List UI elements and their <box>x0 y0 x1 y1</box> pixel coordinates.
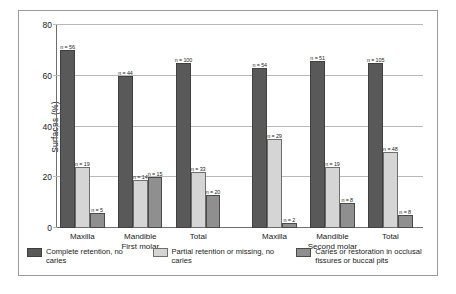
y-tick-label: 20 <box>43 172 52 182</box>
bar-group: n = 44n = 14n = 15MandibleFirst molar <box>115 25 173 228</box>
bar[interactable]: n = 14 <box>133 180 148 228</box>
legend-item[interactable]: Caries or restoration in occlusal fissur… <box>296 247 429 265</box>
bar-group: n = 100n = 33n = 20Total <box>173 25 231 228</box>
bar[interactable]: n = 48 <box>383 152 398 228</box>
y-tick-label: 0 <box>47 223 52 233</box>
bar[interactable]: n = 5 <box>90 213 105 228</box>
y-tick-label: 80 <box>43 20 52 30</box>
figure-frame: Surfaces (%) 020406080 n = 56n = 19n = 5… <box>18 10 438 276</box>
bar-value-label: n = 5 <box>91 207 103 213</box>
legend-swatch-icon <box>27 248 42 257</box>
x-axis-category-label: Maxilla <box>70 232 95 241</box>
bar-value-label: n = 100 <box>175 57 192 63</box>
bar[interactable]: n = 15 <box>148 177 163 228</box>
x-axis-category-label: Mandible <box>316 232 348 241</box>
bar[interactable]: n = 44 <box>118 76 133 228</box>
bar-value-label: n = 8 <box>399 209 411 215</box>
bar-series-container: n = 56n = 19n = 5Maxillan = 44n = 14n = … <box>57 25 423 228</box>
bar-value-label: n = 33 <box>191 166 206 172</box>
bar[interactable]: n = 19 <box>75 167 90 228</box>
bar-value-label: n = 20 <box>206 189 221 195</box>
bar-value-label: n = 105 <box>367 57 384 63</box>
bar-value-label: n = 44 <box>118 70 133 76</box>
x-axis-category-label: Total <box>190 232 207 241</box>
bar-value-label: n = 48 <box>383 146 398 152</box>
bar[interactable]: n = 105 <box>368 63 383 228</box>
bar-value-label: n = 15 <box>148 171 163 177</box>
bar[interactable]: n = 8 <box>340 203 355 228</box>
bar[interactable]: n = 29 <box>267 139 282 228</box>
bar[interactable]: n = 2 <box>282 223 297 228</box>
bar-value-label: n = 19 <box>325 161 340 167</box>
legend-label: Partial retention or missing, no caries <box>172 247 286 265</box>
legend-swatch-icon <box>296 248 311 257</box>
bar[interactable]: n = 20 <box>206 195 221 228</box>
legend-label: Complete retention, no caries <box>46 247 142 265</box>
bar-group: n = 54n = 29n = 2Maxilla <box>249 25 307 228</box>
bar[interactable]: n = 8 <box>398 215 413 228</box>
y-tick-label: 40 <box>43 122 52 132</box>
bar-value-label: n = 51 <box>310 55 325 61</box>
x-axis-category-label: Maxilla <box>262 232 287 241</box>
bar-value-label: n = 56 <box>60 44 75 50</box>
bar[interactable]: n = 54 <box>252 68 267 228</box>
legend-item[interactable]: Complete retention, no caries <box>27 247 142 265</box>
plot-area: Surfaces (%) 020406080 n = 56n = 19n = 5… <box>57 25 423 228</box>
bar-group: n = 56n = 19n = 5Maxilla <box>57 25 115 228</box>
bar[interactable]: n = 33 <box>191 172 206 228</box>
bar-value-label: n = 14 <box>133 174 148 180</box>
bar-group: n = 105n = 48n = 8Total <box>365 25 423 228</box>
bar-value-label: n = 8 <box>341 197 353 203</box>
legend-item[interactable]: Partial retention or missing, no caries <box>153 247 286 265</box>
legend-label: Caries or restoration in occlusal fissur… <box>315 247 429 265</box>
x-axis-category-label: Mandible <box>124 232 156 241</box>
bar-value-label: n = 54 <box>252 62 267 68</box>
bar-value-label: n = 29 <box>267 133 282 139</box>
bar[interactable]: n = 19 <box>325 167 340 228</box>
legend: Complete retention, no cariesPartial ret… <box>19 247 437 265</box>
bar[interactable]: n = 100 <box>176 63 191 228</box>
y-tick-label: 60 <box>43 71 52 81</box>
bar-value-label: n = 19 <box>75 161 90 167</box>
bar-group: n = 51n = 19n = 8MandibleSecond molar <box>307 25 365 228</box>
bar-value-label: n = 2 <box>283 217 295 223</box>
legend-swatch-icon <box>153 248 168 257</box>
bar[interactable]: n = 56 <box>60 50 75 228</box>
bar[interactable]: n = 51 <box>310 61 325 228</box>
x-axis-category-label: Total <box>382 232 399 241</box>
